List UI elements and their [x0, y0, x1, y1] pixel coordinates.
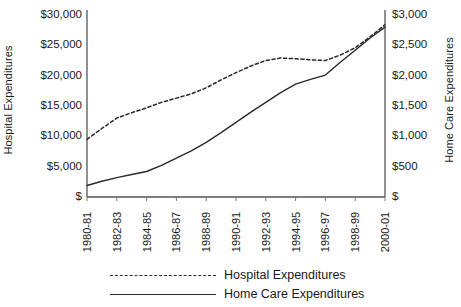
legend-item-hospital: Hospital Expenditures [110, 265, 410, 284]
legend-swatch-solid-icon [110, 288, 216, 300]
series-line-home-care [87, 27, 385, 185]
dual-axis-line-chart: Hospital Expenditures Home Care Expendit… [0, 0, 461, 307]
chart-legend: Hospital Expenditures Home Care Expendit… [110, 265, 410, 303]
legend-swatch-dashed-icon [110, 269, 216, 281]
legend-label-home-care: Home Care Expenditures [224, 287, 364, 301]
plot-area [0, 0, 461, 307]
legend-label-hospital: Hospital Expenditures [224, 268, 346, 282]
legend-item-home-care: Home Care Expenditures [110, 284, 410, 303]
